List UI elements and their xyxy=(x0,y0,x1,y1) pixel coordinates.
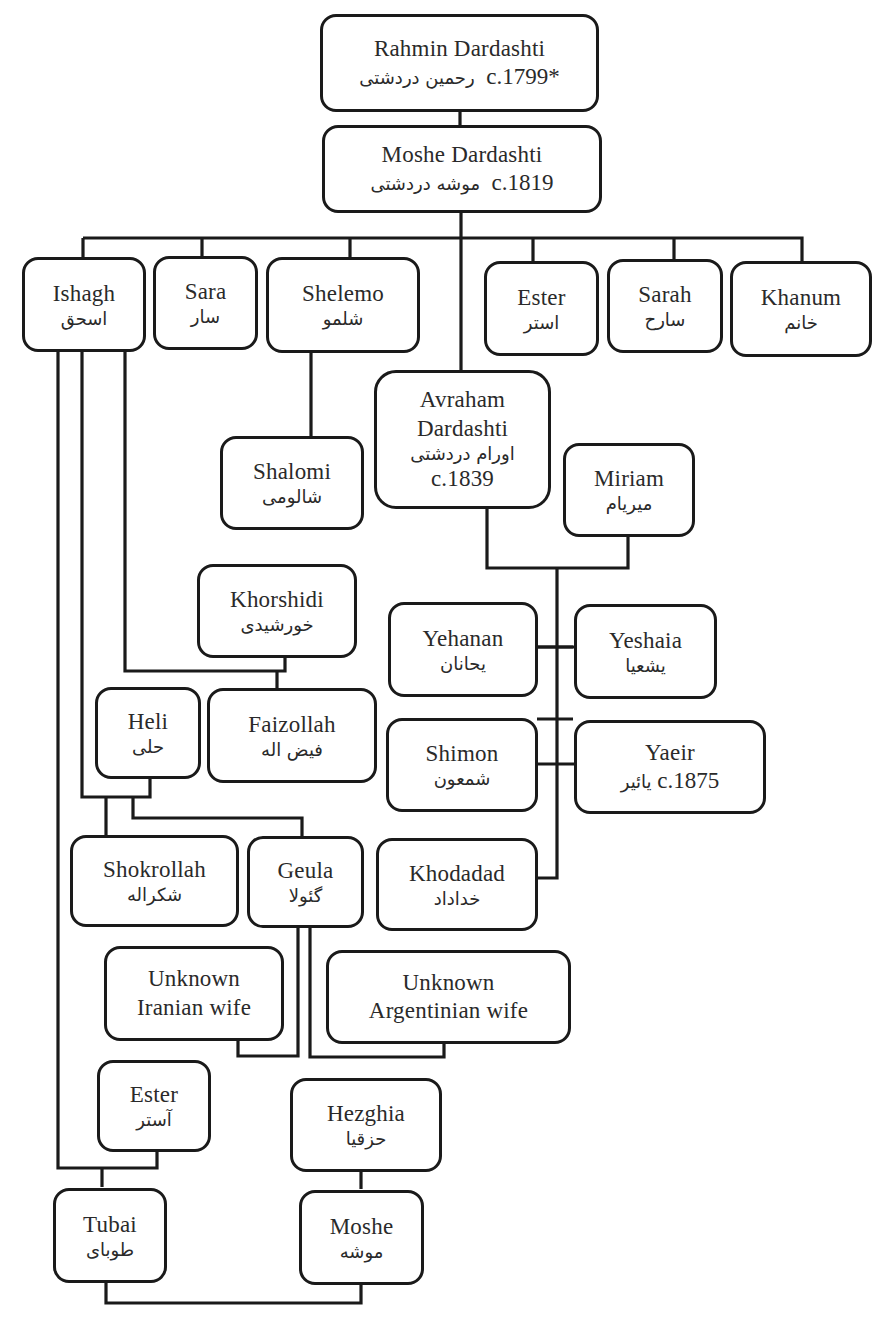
node-name-en: Yaeir xyxy=(645,739,695,767)
node-name-fa: خداداد xyxy=(434,888,481,910)
node-name-fa: خورشیدی xyxy=(240,614,313,636)
node-khorshidi[interactable]: Khorshidi خورشیدی xyxy=(197,564,357,658)
node-name-en: Ester xyxy=(130,1081,178,1109)
node-name-fa: شمعون xyxy=(434,768,491,790)
node-name-fa: یائیر xyxy=(621,771,652,792)
node-name-fa: فیض اله xyxy=(261,739,323,761)
node-hezghia[interactable]: Hezghia حزقیا xyxy=(290,1078,442,1172)
node-name-en: Khanum xyxy=(761,284,841,312)
node-name-fa: شلمو xyxy=(323,308,364,330)
node-name-fa: یحانان xyxy=(440,653,486,675)
node-name-fa: آستر xyxy=(136,1109,171,1131)
node-name-fa: حزقیا xyxy=(346,1128,387,1150)
node-name-fa: یشعیا xyxy=(625,655,666,677)
node-faizollah[interactable]: Faizollah فیض اله xyxy=(207,688,377,783)
node-name-en-first: Avraham xyxy=(420,386,505,414)
node-name-en: Geula xyxy=(278,857,334,885)
node-moshe[interactable]: Moshe موشه xyxy=(299,1190,424,1285)
node-name-en: Heli xyxy=(128,708,168,736)
node-name-fa: اسحق xyxy=(61,308,108,330)
node-name-fa: سار xyxy=(191,306,220,328)
node-ishagh[interactable]: Ishagh اسحق xyxy=(22,257,146,352)
node-name-en: Ishagh xyxy=(53,280,116,308)
node-date: c.1839 xyxy=(431,465,494,493)
node-shimon[interactable]: Shimon شمعون xyxy=(386,718,538,812)
node-name-en: Yeshaia xyxy=(609,627,682,655)
node-yehanan[interactable]: Yehanan یحانان xyxy=(388,602,538,697)
node-name-fa-date: رحمین دردشتی c.1799* xyxy=(359,63,559,91)
node-name-fa-date: یائیر c.1875 xyxy=(621,767,720,795)
node-name-en: Shimon xyxy=(426,740,499,768)
node-name-en: Hezghia xyxy=(327,1100,405,1128)
node-unknown-iranian-wife[interactable]: Unknown Iranian wife xyxy=(104,946,284,1041)
node-name-en: Moshe xyxy=(330,1213,394,1241)
node-sarah[interactable]: Sarah سارح xyxy=(607,259,723,353)
node-name-fa: شالومی xyxy=(262,486,322,508)
node-name-line1: Unknown xyxy=(148,965,240,993)
node-name-en: Shelemo xyxy=(302,280,384,308)
node-name-fa: حلی xyxy=(132,736,164,758)
node-name-fa: شکراله xyxy=(127,884,182,906)
connector-avraham-children xyxy=(537,568,573,878)
node-avraham-dardashti[interactable]: Avraham Dardashti اورام دردشتی c.1839 xyxy=(374,370,551,509)
node-name-en: Rahmin Dardashti xyxy=(374,35,545,63)
node-name-en: Sara xyxy=(185,278,227,306)
node-tubai[interactable]: Tubai طوبای xyxy=(53,1188,167,1283)
node-shokrollah[interactable]: Shokrollah شکراله xyxy=(70,835,239,927)
node-name-fa: اورام دردشتی xyxy=(410,443,515,465)
node-date: c.1875 xyxy=(657,768,719,793)
node-name-en: Tubai xyxy=(83,1211,137,1239)
node-date: c.1819 xyxy=(492,170,554,195)
node-name-fa: سارح xyxy=(645,309,686,331)
node-shelemo[interactable]: Shelemo شلمو xyxy=(266,257,420,353)
node-name-en: Sarah xyxy=(638,281,691,309)
node-name-fa: طوبای xyxy=(86,1239,134,1261)
family-tree: Rahmin Dardashti رحمین دردشتی c.1799* Mo… xyxy=(0,0,888,1332)
node-name-en: Shalomi xyxy=(253,458,331,486)
node-name-fa: موشه xyxy=(340,1241,384,1263)
node-khanum[interactable]: Khanum خانم xyxy=(730,261,872,357)
node-name-en: Shokrollah xyxy=(103,856,206,884)
node-yaeir[interactable]: Yaeir یائیر c.1875 xyxy=(574,720,766,814)
node-name-fa: میریام xyxy=(606,493,653,515)
node-name-line2: Iranian wife xyxy=(137,994,251,1022)
node-name-en: Yehanan xyxy=(423,625,504,653)
node-sara[interactable]: Sara سار xyxy=(153,256,258,350)
node-name-fa: رحمین دردشتی xyxy=(359,67,474,88)
node-khodadad[interactable]: Khodadad خداداد xyxy=(376,838,538,931)
node-name-en: Faizollah xyxy=(248,711,335,739)
node-name-fa-date: موشه دردشتی c.1819 xyxy=(370,169,553,197)
node-rahmin-dardashti[interactable]: Rahmin Dardashti رحمین دردشتی c.1799* xyxy=(320,14,599,112)
node-unknown-argentinian-wife[interactable]: Unknown Argentinian wife xyxy=(326,950,571,1044)
node-name-en: Miriam xyxy=(594,465,664,493)
node-ester[interactable]: Ester استر xyxy=(484,261,599,356)
node-heli[interactable]: Heli حلی xyxy=(95,687,201,779)
node-miriam[interactable]: Miriam میریام xyxy=(563,443,695,537)
connector-tubai-moshe xyxy=(106,1282,361,1303)
node-name-fa: خانم xyxy=(784,312,818,334)
node-name-line2: Argentinian wife xyxy=(369,997,528,1025)
node-name-en-last: Dardashti xyxy=(417,415,508,443)
node-name-en: Khorshidi xyxy=(230,586,324,614)
node-name-en: Moshe Dardashti xyxy=(382,141,543,169)
node-name-en: Khodadad xyxy=(409,860,505,888)
node-geula[interactable]: Geula گئولا xyxy=(247,836,364,928)
node-yeshaia[interactable]: Yeshaia یشعیا xyxy=(574,604,717,699)
node-name-line1: Unknown xyxy=(402,969,494,997)
node-moshe-dardashti[interactable]: Moshe Dardashti موشه دردشتی c.1819 xyxy=(322,125,602,213)
node-name-en: Ester xyxy=(517,284,565,312)
node-name-fa: گئولا xyxy=(289,885,323,907)
node-name-fa: موشه دردشتی xyxy=(370,173,480,194)
connector-heli-geula xyxy=(133,797,302,837)
node-date: c.1799* xyxy=(486,64,559,89)
node-name-fa: استر xyxy=(524,312,559,334)
node-ester-2[interactable]: Ester آستر xyxy=(97,1060,211,1152)
node-shalomi[interactable]: Shalomi شالومی xyxy=(220,436,364,530)
